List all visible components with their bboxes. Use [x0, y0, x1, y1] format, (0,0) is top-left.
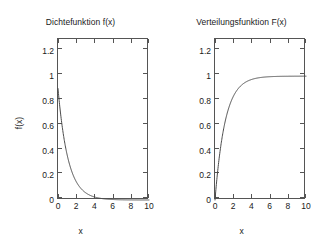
figure-canvas: Dichtefunktion f(x) f(x) x 0 0.2 0.4 0.6 [0, 0, 322, 248]
y-tick-label-1: 1 [206, 72, 211, 81]
x-tick-label-4: 4 [249, 202, 254, 211]
y-tick-label-04: 0.4 [199, 146, 211, 155]
x-axis-title-density: x [0, 226, 161, 236]
y-axis-title-density: f(x) [14, 112, 24, 134]
y-tick-label-02: 0.2 [42, 171, 54, 180]
panel-title-distribution: Verteilungsfunktion F(x) [161, 17, 322, 28]
x-tick-label-2: 2 [74, 202, 79, 211]
y-tick-label-12: 1.2 [42, 47, 54, 56]
y-tick-label-1: 1 [49, 72, 54, 81]
x-tick-label-10: 10 [301, 202, 310, 211]
x-tick-label-2: 2 [231, 202, 236, 211]
x-tick-label-6: 6 [267, 202, 272, 211]
y-tick-label-12: 1.2 [199, 47, 211, 56]
x-tick-label-8: 8 [128, 202, 133, 211]
panel-title-density: Dichtefunktion f(x) [0, 17, 161, 28]
y-tick-label-04: 0.4 [42, 146, 54, 155]
panel-density: Dichtefunktion f(x) f(x) x 0 0.2 0.4 0.6 [0, 0, 161, 248]
x-tick-label-0: 0 [213, 202, 218, 211]
x-tick-label-8: 8 [285, 202, 290, 211]
x-tick-label-10: 10 [144, 202, 153, 211]
y-tick-label-02: 0.2 [199, 171, 211, 180]
x-axis-title-distribution: x [161, 226, 322, 236]
y-tick-label-0: 0 [49, 196, 54, 205]
distribution-curve [215, 39, 306, 200]
density-curve [58, 39, 149, 200]
x-tick-label-4: 4 [92, 202, 97, 211]
x-tick-label-6: 6 [110, 202, 115, 211]
y-tick-label-08: 0.8 [199, 96, 211, 105]
panel-distribution: Verteilungsfunktion F(x) x 0 0.2 0.4 0.6… [161, 0, 322, 248]
y-tick-label-08: 0.8 [42, 96, 54, 105]
y-tick-label-06: 0.6 [42, 121, 54, 130]
y-tick-label-0: 0 [206, 196, 211, 205]
plot-area-density: 0 0.2 0.4 0.6 0.8 1 1.2 0 2 4 6 8 [57, 38, 148, 199]
y-tick-label-06: 0.6 [199, 121, 211, 130]
x-tick-label-0: 0 [56, 202, 61, 211]
plot-area-distribution: 0 0.2 0.4 0.6 0.8 1 1.2 0 2 4 6 8 10 [214, 38, 305, 199]
